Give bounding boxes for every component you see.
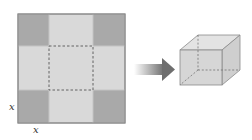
diagram-canvas: x x <box>0 0 252 140</box>
arrow-icon <box>134 58 175 81</box>
label-x-vertical: x <box>9 101 15 112</box>
label-x-horizontal: x <box>33 124 39 135</box>
open-box <box>180 35 240 85</box>
corner-square-bottom-right <box>93 90 125 123</box>
corner-square-bottom-left <box>18 90 49 123</box>
corner-square-top-left <box>18 14 49 46</box>
corner-square-top-right <box>93 14 125 46</box>
flat-sheet <box>18 14 125 123</box>
